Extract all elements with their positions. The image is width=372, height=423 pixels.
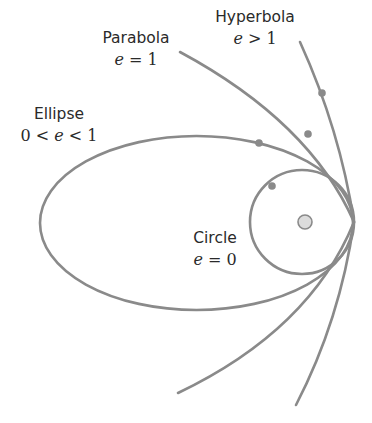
parabola-name: Parabola xyxy=(102,29,169,47)
ellipse-label: Ellipse 0 < e < 1 xyxy=(14,104,104,146)
orbiting-bodies xyxy=(255,89,326,190)
orbit-diagram-canvas xyxy=(0,0,372,423)
ellipse-eccentricity: 0 < e < 1 xyxy=(14,125,104,146)
circle-eccentricity: e = 0 xyxy=(184,249,246,270)
hyperbola-name: Hyperbola xyxy=(215,8,295,26)
parabola-label: Parabola e = 1 xyxy=(93,28,179,70)
parabola-body-dot xyxy=(304,130,312,138)
parabola-eccentricity: e = 1 xyxy=(93,49,179,70)
hyperbola-label: Hyperbola e > 1 xyxy=(207,7,303,49)
circle-body-dot xyxy=(268,182,276,190)
sun-icon xyxy=(298,215,312,229)
ellipse-body-dot xyxy=(255,139,263,147)
hyperbola-eccentricity: e > 1 xyxy=(207,28,303,49)
circle-name: Circle xyxy=(193,229,237,247)
circle-label: Circle e = 0 xyxy=(184,228,246,270)
parabola-orbit xyxy=(178,52,354,393)
orbit-diagram: Parabola e = 1 Hyperbola e > 1 Ellipse 0… xyxy=(0,0,372,423)
ellipse-name: Ellipse xyxy=(34,105,84,123)
hyperbola-body-dot xyxy=(318,89,326,97)
